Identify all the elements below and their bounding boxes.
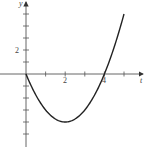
y-axis-label: y bbox=[18, 0, 23, 8]
x-tick-label-4: 4 bbox=[102, 76, 106, 85]
x-axis-label: t bbox=[140, 76, 143, 85]
y-tick-label-2: 2 bbox=[15, 46, 19, 55]
function-curve bbox=[26, 14, 124, 122]
x-tick-label-2: 2 bbox=[63, 76, 67, 85]
function-plot: 2 4 2 t y bbox=[0, 0, 146, 147]
